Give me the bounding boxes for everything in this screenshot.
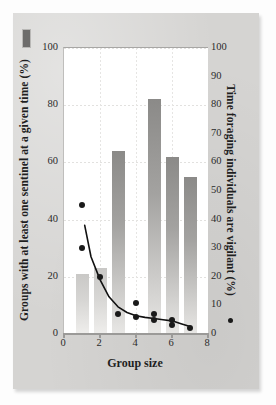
x-axis-title: Group size [63, 356, 207, 371]
data-point [151, 317, 157, 323]
data-point [187, 325, 193, 331]
y-axis-left-ticks: 020406080100 [30, 47, 58, 333]
data-point [79, 245, 85, 251]
y-axis-left-tick-label: 100 [42, 42, 58, 53]
y-axis-right-tick-label: 80 [211, 99, 222, 110]
y-axis-right-tick-label: 50 [211, 185, 222, 196]
legend-point-marker [228, 318, 233, 323]
data-point [133, 300, 139, 306]
x-axis-tick-mark [99, 333, 101, 338]
y-axis-right-tick-label: 60 [211, 156, 222, 167]
data-point [133, 314, 139, 320]
data-point [79, 202, 85, 208]
x-axis-tick-label: 0 [60, 338, 65, 349]
y-axis-right-tick-label: 90 [211, 70, 222, 81]
y-axis-right-tick-label: 20 [211, 271, 222, 282]
y-axis-left-tick-label: 40 [48, 213, 59, 224]
y-axis-left-tick-label: 20 [48, 271, 59, 282]
y-axis-right-ticks: 0102030405060708090100 [211, 47, 237, 333]
plot-frame [63, 47, 208, 334]
x-axis-tick-mark [171, 333, 173, 338]
x-axis-tick-label: 8 [204, 338, 209, 349]
x-axis-tick-label: 4 [132, 338, 137, 349]
figure-root: Groups with at least one sentinel at a g… [0, 0, 276, 405]
y-axis-left-tick-label: 80 [48, 99, 59, 110]
y-axis-left-tick-label: 0 [53, 328, 58, 339]
y-axis-right-tick-label: 70 [211, 128, 222, 139]
x-axis-tick-mark [135, 333, 137, 338]
data-point [115, 311, 121, 317]
fitted-curve [64, 48, 208, 334]
x-axis-tick-mark [207, 333, 209, 338]
y-axis-right-tick-label: 10 [211, 299, 222, 310]
data-point [169, 322, 175, 328]
x-axis-ticks: 02468 [63, 338, 207, 352]
y-axis-right-tick-label: 0 [211, 328, 216, 339]
panel-label-swatch [22, 29, 31, 48]
y-axis-right-tick-label: 30 [211, 242, 222, 253]
y-axis-right-tick-label: 100 [211, 42, 227, 53]
y-axis-left-tick-label: 60 [48, 156, 59, 167]
plot-area [64, 48, 208, 334]
x-axis-tick-mark [63, 333, 65, 338]
y-axis-right-tick-label: 40 [211, 213, 222, 224]
x-axis-tick-label: 2 [96, 338, 101, 349]
data-point [97, 274, 103, 280]
x-axis-tick-label: 6 [168, 338, 173, 349]
